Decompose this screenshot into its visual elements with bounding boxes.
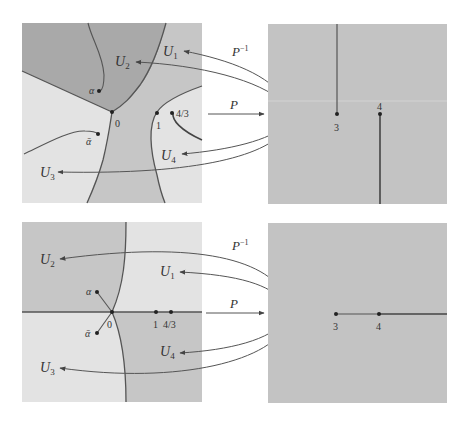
label-three: 3	[334, 122, 339, 133]
point-zero	[110, 310, 114, 314]
bottom-left-panel: α ᾱ 0 1 4/3 U1 U2 U3 U4	[22, 222, 202, 402]
point-four	[377, 312, 381, 316]
point-three	[335, 112, 339, 116]
label-p-forward: P	[229, 296, 238, 311]
label-four: 4	[377, 101, 382, 112]
label-p-forward: P	[229, 97, 238, 112]
top-left-panel: α ᾱ 0 1 4/3 U1 U2 U3 U4	[22, 23, 202, 203]
label-four-thirds: 4/3	[163, 319, 176, 330]
label-alpha: α	[86, 286, 92, 297]
label-one: 1	[156, 120, 161, 131]
point-alpha	[97, 89, 101, 93]
point-zero	[110, 110, 114, 114]
point-alpha	[95, 290, 99, 294]
top-right-panel: 3 4	[268, 24, 447, 204]
point-four-thirds	[170, 111, 174, 115]
point-one	[155, 111, 159, 115]
label-four: 4	[376, 321, 381, 332]
label-three: 3	[333, 321, 338, 332]
point-four	[378, 112, 382, 116]
point-alpha-bar	[96, 132, 100, 136]
point-three	[334, 312, 338, 316]
figure: α ᾱ 0 1 4/3 U1 U2 U3 U4 P−1 P V 3 4	[0, 0, 466, 422]
label-zero: 0	[107, 319, 112, 330]
label-p-inverse: P−1	[231, 238, 248, 253]
point-one	[154, 310, 158, 314]
label-zero: 0	[115, 118, 120, 129]
label-four-thirds: 4/3	[176, 108, 189, 119]
label-alpha-bar: ᾱ	[85, 328, 91, 339]
label-alpha-bar: ᾱ	[86, 136, 92, 147]
label-alpha: α	[89, 85, 95, 96]
label-one: 1	[153, 319, 158, 330]
bottom-right-panel: 3 4	[268, 223, 447, 403]
point-four-thirds	[169, 310, 173, 314]
point-alpha-bar	[95, 331, 99, 335]
label-p-inverse: P−1	[231, 44, 248, 59]
